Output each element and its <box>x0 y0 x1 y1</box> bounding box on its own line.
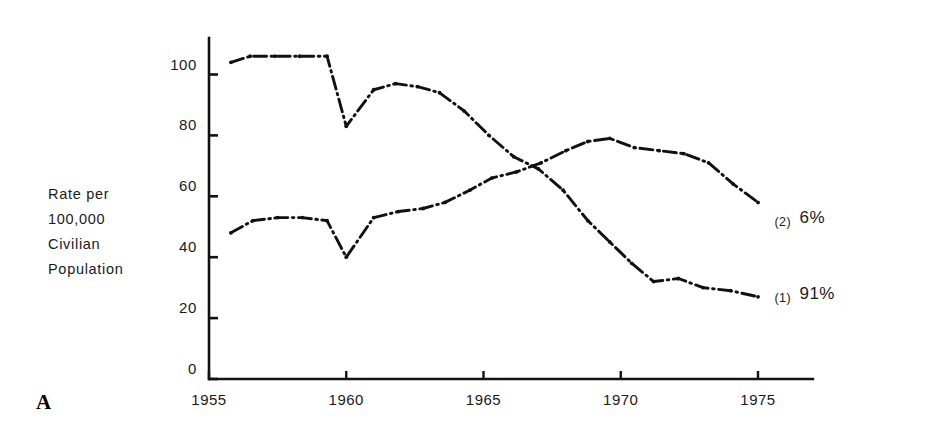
data-point <box>229 60 233 64</box>
data-point <box>248 54 252 58</box>
y-axis-tick-label: 40 <box>151 238 197 255</box>
series-end-label: (2) 6% <box>774 210 824 230</box>
y-axis-tick-label: 100 <box>151 56 197 73</box>
data-series <box>229 54 760 298</box>
data-point <box>515 170 519 174</box>
y-axis-tick-label: 80 <box>151 116 197 133</box>
data-point <box>701 286 705 290</box>
data-point <box>657 149 661 153</box>
x-axis-tick-label: 1965 <box>454 391 514 408</box>
data-point <box>325 219 329 223</box>
data-point <box>487 134 491 138</box>
data-point <box>443 200 447 204</box>
data-point <box>273 54 277 58</box>
data-point <box>564 149 568 153</box>
data-point <box>372 88 376 92</box>
x-axis-tick-label: 1975 <box>728 391 788 408</box>
y-axis-tick-label: 20 <box>151 299 197 316</box>
data-point <box>707 161 711 165</box>
series-number: (1) <box>774 291 790 305</box>
data-point <box>438 91 442 95</box>
data-point <box>300 216 304 220</box>
x-axis-tick-label: 1970 <box>591 391 651 408</box>
data-point <box>676 277 680 281</box>
chart-figure: Rate per 100,000 Civilian Population A 0… <box>0 0 926 440</box>
axis-spine <box>209 38 813 379</box>
panel-letter: A <box>36 390 51 415</box>
data-point <box>298 54 302 58</box>
y-axis-tick-label: 0 <box>151 360 197 377</box>
y-axis-title-line-4: Population <box>48 257 178 282</box>
series-2 <box>229 137 760 260</box>
data-point <box>394 82 398 86</box>
data-point <box>586 219 590 223</box>
y-axis-tick-label: 60 <box>151 177 197 194</box>
series-percent: 6% <box>800 208 825 227</box>
data-point <box>344 255 348 259</box>
series-line <box>231 138 758 257</box>
data-point <box>561 188 565 192</box>
data-point <box>756 295 760 299</box>
data-point <box>652 280 656 284</box>
data-point <box>229 231 233 235</box>
data-point <box>416 85 420 89</box>
data-point <box>630 261 634 265</box>
data-point <box>344 124 348 128</box>
data-point <box>731 182 735 186</box>
series-end-label: (1) 91% <box>774 286 834 306</box>
y-axis-title: Rate per 100,000 Civilian Population <box>48 182 178 282</box>
data-point <box>490 176 494 180</box>
axes <box>208 38 813 380</box>
data-point <box>633 146 637 150</box>
data-point <box>512 155 516 159</box>
x-axis-tick-label: 1960 <box>316 391 376 408</box>
data-point <box>608 240 612 244</box>
data-point <box>729 289 733 293</box>
data-point <box>539 161 543 165</box>
data-point <box>608 137 612 141</box>
data-point <box>251 219 255 223</box>
data-point <box>586 140 590 144</box>
x-axis-tick-label: 1955 <box>179 391 239 408</box>
data-point <box>756 200 760 204</box>
data-point <box>462 109 466 113</box>
y-axis-title-line-2: 100,000 <box>48 207 178 232</box>
series-number: (2) <box>774 215 790 229</box>
data-point <box>397 210 401 214</box>
data-point <box>325 54 329 58</box>
series-percent: 91% <box>800 284 835 303</box>
data-point <box>468 188 472 192</box>
data-point <box>372 216 376 220</box>
data-point <box>276 216 280 220</box>
data-point <box>682 152 686 156</box>
data-point <box>537 167 541 171</box>
data-point <box>421 207 425 211</box>
